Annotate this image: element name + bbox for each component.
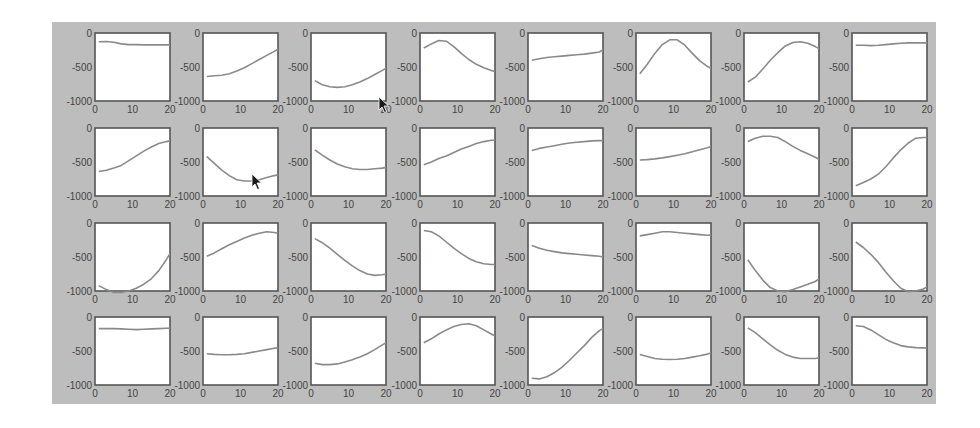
y-tick-label: -1000 [66,190,92,201]
subplot-r1-c5: 0-500-100001020 [528,33,603,105]
y-tick-label: -500 [288,251,308,262]
y-tick-label: -1000 [499,96,525,107]
y-tick-label: -500 [397,251,417,262]
axes-box [528,128,603,196]
y-tick-label: -500 [721,251,741,262]
x-tick-label: 10 [776,104,788,115]
x-tick-label: 10 [343,199,355,210]
x-tick-label: 0 [741,388,747,399]
y-tick-label: 0 [411,122,417,133]
y-tick-label: -500 [288,62,308,73]
y-tick-label: -500 [180,346,200,357]
x-tick-label: 0 [525,199,531,210]
x-tick-label: 10 [560,294,572,305]
x-tick-label: 0 [633,199,639,210]
x-tick-label: 0 [200,388,206,399]
y-tick-label: 0 [627,217,633,228]
y-tick-label: -1000 [716,380,742,391]
y-tick-label: -500 [829,156,849,167]
y-tick-label: -1000 [716,285,742,296]
y-tick-label: 0 [736,217,742,228]
x-tick-label: 0 [850,294,856,305]
x-tick-label: 0 [417,294,423,305]
y-tick-label: -500 [613,156,633,167]
axes-box [311,128,386,196]
x-tick-label: 10 [235,388,247,399]
subplot-r1-c3: 0-500-100001020 [311,33,386,105]
y-tick-label: -1000 [175,96,201,107]
axes-box [203,223,278,291]
x-tick-label: 0 [850,199,856,210]
y-tick-label: -1000 [175,190,201,201]
y-tick-label: -1000 [607,380,633,391]
axes-box [528,317,603,385]
subplot-r3-c3: 0-500-100001020 [311,223,386,295]
y-tick-label: -1000 [499,380,525,391]
subplot-r4-c3: 0-500-100001020 [311,317,386,389]
subplot-r3-c5: 0-500-100001020 [528,223,603,295]
y-tick-label: -1000 [499,190,525,201]
y-tick-label: -1000 [391,96,417,107]
y-tick-label: -1000 [607,96,633,107]
y-tick-label: 0 [519,312,525,323]
y-tick-label: 0 [736,28,742,39]
x-tick-label: 0 [92,199,98,210]
subplot-r3-c8: 0-500-100001020 [852,223,927,295]
axes-box [528,223,603,291]
y-tick-label: -1000 [283,285,309,296]
x-tick-label: 0 [741,294,747,305]
x-tick-label: 0 [525,388,531,399]
axes-box [636,223,711,291]
y-tick-label: -500 [72,251,92,262]
y-tick-label: 0 [736,312,742,323]
y-tick-label: -500 [180,251,200,262]
y-tick-label: 0 [86,217,92,228]
y-tick-label: -500 [721,346,741,357]
subplot-r2-c6: 0-500-100001020 [636,128,711,200]
y-tick-label: -1000 [175,285,201,296]
y-tick-label: 0 [86,122,92,133]
y-tick-label: -1000 [824,190,850,201]
y-tick-label: 0 [303,312,309,323]
subplot-r1-c2: 0-500-100001020 [203,33,278,105]
subplot-r2-c7: 0-500-100001020 [744,128,819,200]
x-tick-label: 10 [452,104,464,115]
x-tick-label: 10 [776,388,788,399]
x-tick-label: 10 [343,294,355,305]
y-tick-label: -500 [288,156,308,167]
x-tick-label: 20 [922,199,934,210]
x-tick-label: 0 [92,104,98,115]
x-tick-label: 10 [127,294,139,305]
y-tick-label: -500 [613,251,633,262]
x-tick-label: 10 [127,199,139,210]
y-tick-label: 0 [195,28,201,39]
y-tick-label: -1000 [66,285,92,296]
y-tick-label: -1000 [66,380,92,391]
x-tick-label: 10 [235,104,247,115]
y-tick-label: 0 [844,217,850,228]
x-tick-label: 0 [200,104,206,115]
subplot-r3-c6: 0-500-100001020 [636,223,711,295]
y-tick-label: 0 [86,312,92,323]
y-tick-label: -1000 [716,96,742,107]
subplot-r2-c3: 0-500-100001020 [311,128,386,200]
y-tick-label: -500 [397,62,417,73]
subplot-r4-c6: 0-500-100001020 [636,317,711,389]
y-tick-label: -1000 [66,96,92,107]
x-tick-label: 0 [417,388,423,399]
y-tick-label: -1000 [391,285,417,296]
x-tick-label: 10 [343,104,355,115]
y-tick-label: -500 [829,346,849,357]
axes-box [311,223,386,291]
y-tick-label: -500 [505,251,525,262]
y-tick-label: -500 [829,62,849,73]
y-tick-label: -500 [180,62,200,73]
y-tick-label: -500 [721,156,741,167]
x-tick-label: 20 [922,388,934,399]
axes-box [203,128,278,196]
x-tick-label: 10 [776,199,788,210]
subplot-r4-c2: 0-500-100001020 [203,317,278,389]
y-tick-label: -500 [613,62,633,73]
y-tick-label: -500 [72,62,92,73]
x-tick-label: 0 [309,294,315,305]
